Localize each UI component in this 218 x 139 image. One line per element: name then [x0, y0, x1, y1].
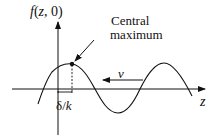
- wave-diagram: f(z, 0) Central maximum v z δ/k: [0, 0, 218, 139]
- annotation-arrow: [75, 40, 94, 61]
- annotation-line2: maximum: [110, 28, 163, 41]
- x-axis-label: z: [200, 95, 205, 109]
- diagram-canvas: [0, 0, 218, 139]
- y-axis-label: f(z, 0): [30, 5, 63, 19]
- offset-bracket: [58, 91, 72, 93]
- annotation-line1: Central: [111, 14, 149, 27]
- velocity-label: v: [118, 67, 124, 80]
- offset-label: δ/k: [56, 99, 72, 112]
